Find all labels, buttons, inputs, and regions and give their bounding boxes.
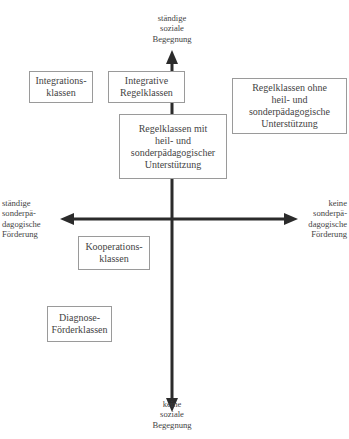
box-regelklassen-ohne: Regelklassen ohne heil- und sonderpädago… — [232, 78, 347, 134]
box-label: Integrations- klassen — [35, 75, 86, 99]
box-integrationsklassen: Integrations- klassen — [29, 71, 93, 103]
box-regelklassen-mit: Regelklassen mit heil- und sonderpädagog… — [119, 114, 227, 179]
vertical-axis — [166, 50, 178, 412]
box-label: Regelklassen ohne heil- und sonderpädago… — [249, 82, 330, 130]
box-diagnose-foerderklassen: Diagnose- Förderklassen — [47, 306, 112, 342]
box-integrative-regelklassen: Integrative Regelklassen — [108, 71, 185, 103]
axis-label-right: keine sonderpä- dagogische Förderung — [290, 198, 347, 240]
box-label: Kooperations- klassen — [85, 241, 142, 265]
axis-label-bottom: keine soziale Begegnung — [137, 399, 207, 430]
box-label: Diagnose- Förderklassen — [51, 312, 107, 336]
box-kooperationsklassen: Kooperations- klassen — [78, 236, 150, 270]
axis-label-top: ständige soziale Begegnung — [137, 13, 207, 44]
arrow-up-icon — [166, 50, 178, 64]
box-label: Regelklassen mit heil- und sonderpädagog… — [131, 123, 215, 171]
arrow-left-icon — [60, 213, 74, 225]
horizontal-axis — [60, 213, 298, 225]
box-label: Integrative Regelklassen — [120, 75, 173, 99]
axis-label-left: ständige sonderpä- dagogische Förderung — [2, 198, 58, 240]
